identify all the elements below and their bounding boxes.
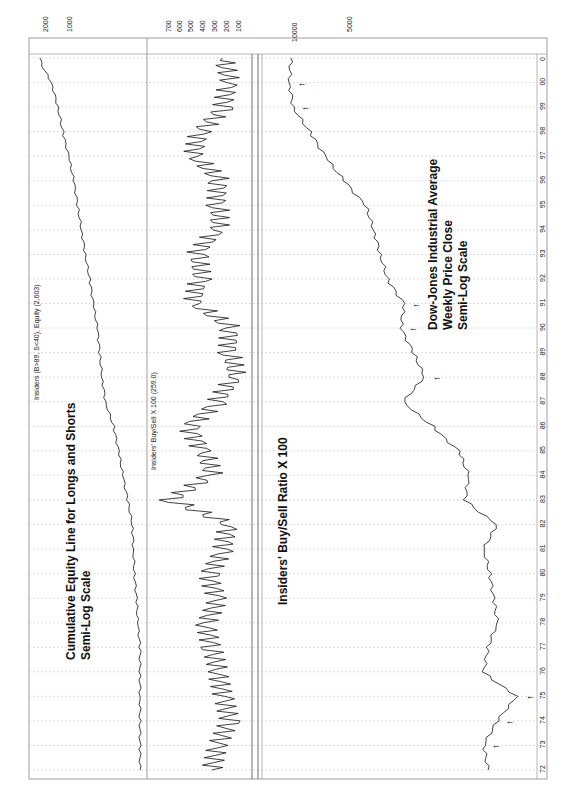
year-tick: 82 — [539, 520, 546, 528]
year-tick: 80 — [539, 569, 546, 577]
tick-700: 700 — [165, 20, 172, 32]
signal-arrows: ←←←←←←←← — [297, 78, 534, 751]
signal-arrow-icon: ← — [409, 323, 418, 333]
year-tick: 77 — [539, 642, 546, 650]
year-tick: 79 — [539, 593, 546, 601]
year-tick: 83 — [539, 495, 546, 503]
year-tick: 88 — [539, 372, 546, 380]
tick-200: 200 — [223, 20, 230, 32]
year-tick: 81 — [539, 544, 546, 552]
tick-2000: 2000 — [42, 16, 49, 32]
tick-10000: 10000 — [291, 22, 298, 42]
ratio-annotation: Insiders' Buy/Sell Ratio X 100 — [276, 437, 290, 605]
tick-300: 300 — [211, 20, 218, 32]
year-tick: 78 — [539, 618, 546, 626]
signal-arrow-icon: ← — [412, 299, 421, 309]
tick-400: 400 — [199, 20, 206, 32]
year-tick: 85 — [539, 446, 546, 454]
equity-annotation-line2: Semi-Log Scale — [79, 570, 93, 660]
djia-annotation-line3: Semi-Log Scale — [456, 240, 470, 330]
ratio-axis-ticks: 700 600 500 400 300 200 100 — [165, 20, 242, 32]
djia-annotation-line1: Dow-Jones Industrial Average — [426, 159, 440, 330]
year-gridlines — [29, 58, 537, 770]
signal-arrow-icon: ← — [297, 78, 306, 88]
signal-arrow-icon: ← — [301, 102, 310, 112]
year-tick: 84 — [539, 470, 546, 478]
year-tick: 97 — [539, 151, 546, 159]
year-tick: 76 — [539, 667, 546, 675]
signal-arrow-icon: ← — [505, 716, 514, 726]
year-tick: 90 — [539, 323, 546, 331]
year-tick: 96 — [539, 176, 546, 184]
djia-annotation-line2: Weekly Price Close — [441, 220, 455, 330]
year-tick: 89 — [539, 348, 546, 356]
year-tick: 94 — [539, 225, 546, 233]
year-tick: 75 — [539, 691, 546, 699]
tick-600: 600 — [176, 20, 183, 32]
year-tick: 0 — [539, 57, 546, 61]
year-tick: 98 — [539, 127, 546, 135]
equity-line — [40, 58, 141, 770]
ratio-panel-title: Insiders' Buy/Sell X 100 (259.0) — [150, 372, 158, 470]
equity-panel-title: Insiders (B>89, S<40), Equity (2,603) — [33, 284, 41, 400]
year-tick: 86 — [539, 421, 546, 429]
tick-500: 500 — [187, 20, 194, 32]
equity-axis-ticks: 2000 1000 — [42, 16, 73, 32]
year-tick: 91 — [539, 299, 546, 307]
year-tick: 92 — [539, 274, 546, 282]
year-tick: 72 — [539, 765, 546, 773]
buy-sell-ratio-line — [159, 58, 246, 770]
djia-line — [288, 58, 518, 770]
year-tick: 95 — [539, 200, 546, 208]
signal-arrow-icon: ← — [492, 740, 501, 750]
tick-1000: 1000 — [66, 16, 73, 32]
year-tick: 87 — [539, 397, 546, 405]
time-axis-ticks: 7273747576777879808182838485868788899091… — [539, 57, 546, 773]
rotated-triple-panel-chart: 7273747576777879808182838485868788899091… — [0, 0, 580, 789]
year-tick: 00 — [539, 78, 546, 86]
equity-annotation-line1: Cumulative Equity Line for Longs and Sho… — [64, 402, 78, 660]
year-tick: 74 — [539, 716, 546, 724]
year-tick: 93 — [539, 250, 546, 258]
tick-100: 100 — [235, 20, 242, 32]
signal-arrow-icon: ← — [433, 372, 442, 382]
year-tick: 99 — [539, 102, 546, 110]
signal-arrow-icon: ← — [526, 691, 535, 701]
year-tick: 73 — [539, 741, 546, 749]
tick-5000: 5000 — [346, 16, 353, 32]
